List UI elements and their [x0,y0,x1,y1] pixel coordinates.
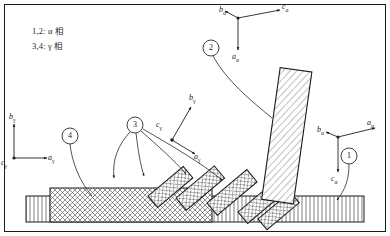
legend-line-gamma: 3,4: γ 相 [32,39,64,51]
legend-line-alpha: 1,2: α 相 [32,24,64,36]
callout-label-3: 3 [128,120,142,129]
axis-label-c-alpha-right: cα [331,174,338,185]
leader-3-c [141,131,186,174]
axis-label-b-alpha-right: bα [317,125,324,136]
axes-alpha-top [225,10,280,50]
leader-3-a [114,132,130,178]
leader-1 [337,164,349,200]
axis-label-b-gamma-mid: bγ [189,93,195,104]
axis-label-c-gamma-mid: cγ [156,120,162,131]
axis-label-a-alpha-top: aα [232,52,239,63]
alpha-lath [262,68,312,204]
callout-circles [62,40,357,164]
leader-2 [213,56,272,118]
axis-label-a-alpha-right: aα [367,118,374,129]
axis-label-b-gamma-left: bγ [9,112,15,123]
axis-label-b-alpha-top: bα [219,5,226,16]
axis-label-a-gamma-left: aγ [48,153,54,164]
callout-label-1: 1 [342,151,356,160]
axis-label-c-alpha-top: cα [282,2,289,13]
callout-label-2: 2 [204,43,218,52]
callout-label-4: 4 [63,131,77,140]
axis-label-c-gamma-left: cγ [1,158,7,169]
axes-gamma-left [12,124,47,160]
axis-label-a-gamma-mid: aγ [194,152,200,163]
leader-3-b [136,133,144,176]
